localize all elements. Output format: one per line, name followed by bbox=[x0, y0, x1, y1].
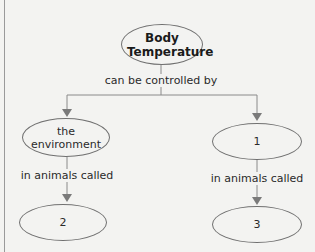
node-body-temperature: Body Temperature bbox=[121, 24, 203, 65]
node-blank-1: 1 bbox=[212, 123, 302, 160]
arrowhead-icon bbox=[62, 194, 72, 202]
arrowhead-icon bbox=[62, 109, 72, 117]
link-label-left-animals: in animals called bbox=[19, 169, 116, 182]
node-label: 2 bbox=[60, 216, 67, 229]
link-label-controlled-by: can be controlled by bbox=[103, 74, 219, 87]
node-label: Body Temperature bbox=[127, 31, 197, 59]
node-label: the environment bbox=[31, 125, 101, 151]
arrowhead-icon bbox=[252, 113, 262, 121]
link-label-right-animals: in animals called bbox=[209, 172, 306, 185]
node-blank-2: 2 bbox=[19, 204, 107, 241]
node-blank-3: 3 bbox=[212, 206, 302, 243]
node-label: 3 bbox=[254, 218, 261, 231]
arrowhead-icon bbox=[252, 197, 262, 205]
node-the-environment: the environment bbox=[22, 118, 110, 157]
node-label: 1 bbox=[254, 135, 261, 148]
